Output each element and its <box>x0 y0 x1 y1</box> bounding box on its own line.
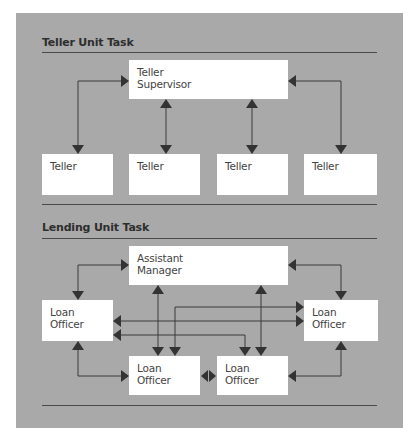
loan-officer-label-2: Officer <box>137 374 200 386</box>
loan-officer-label-2: Officer <box>312 318 378 330</box>
assistant-manager-label-2: Manager <box>137 264 288 276</box>
loan-officer-left-box: Loan Officer <box>42 300 113 341</box>
teller-label: Teller <box>225 160 288 172</box>
teller-supervisor-label-1: Teller <box>137 66 288 78</box>
loan-officer-label-2: Officer <box>50 318 113 330</box>
loan-officer-bottom-right-box: Loan Officer <box>217 356 288 395</box>
teller-box-2: Teller <box>129 154 200 195</box>
teller-unit-title: Teller Unit Task <box>42 36 134 49</box>
teller-label: Teller <box>312 160 377 172</box>
loan-officer-label-1: Loan <box>50 306 113 318</box>
assistant-manager-label-1: Assistant <box>137 252 288 264</box>
teller-supervisor-label-2: Supervisor <box>137 78 288 90</box>
section-divider-rule <box>42 204 377 205</box>
loan-officer-label-1: Loan <box>137 362 200 374</box>
loan-officer-right-box: Loan Officer <box>304 300 378 341</box>
loan-officer-label-2: Officer <box>225 374 288 386</box>
loan-officer-label-1: Loan <box>225 362 288 374</box>
teller-box-3: Teller <box>217 154 288 195</box>
loan-officer-label-1: Loan <box>312 306 378 318</box>
teller-label: Teller <box>137 160 200 172</box>
assistant-manager-box: Assistant Manager <box>129 246 288 285</box>
teller-box-4: Teller <box>304 154 377 195</box>
teller-label: Teller <box>50 160 113 172</box>
teller-box-1: Teller <box>42 154 113 195</box>
lending-unit-title: Lending Unit Task <box>42 221 149 234</box>
bottom-rule <box>42 405 377 406</box>
teller-supervisor-box: Teller Supervisor <box>129 60 288 99</box>
loan-officer-bottom-left-box: Loan Officer <box>129 356 200 395</box>
teller-title-rule <box>42 52 377 53</box>
lending-title-rule <box>42 238 377 239</box>
